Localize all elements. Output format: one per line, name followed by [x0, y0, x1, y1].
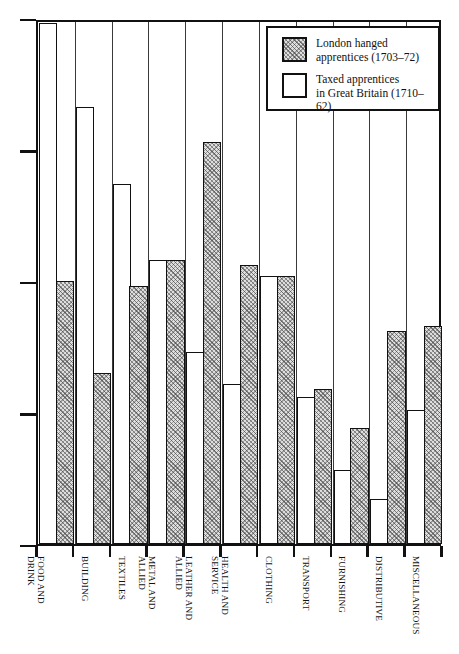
chart-legend: London hanged apprentices (1703–72) Taxe… [266, 26, 440, 111]
x-axis-tick [72, 546, 75, 557]
bar-taxed-10 [407, 410, 425, 544]
bar-hanged-0 [56, 281, 74, 544]
x-axis-label-6: CLOTHING [260, 556, 274, 652]
x-axis-label-3: METAL ANDALLIED [143, 556, 157, 652]
bar-hanged-9 [387, 331, 405, 544]
x-axis-tick [440, 546, 443, 557]
bar-hanged-3 [166, 260, 184, 544]
x-axis-label-5: HEALTH ANDSERVICE [216, 556, 230, 652]
y-axis-tick [20, 150, 36, 153]
x-axis-label-line: TRANSPORT [301, 556, 311, 652]
bar-hanged-1 [93, 373, 111, 544]
x-axis-tick [403, 546, 406, 557]
x-axis-label-9: DISTRIBUTIVE [370, 556, 384, 652]
bar-hanged-4 [203, 142, 221, 544]
bar-taxed-6 [260, 276, 278, 544]
x-axis-label-line: HEALTH AND [220, 556, 230, 652]
x-axis-label-line: DISTRIBUTIVE [374, 556, 384, 652]
legend-swatch-hanged-icon [282, 37, 307, 62]
bar-hanged-10 [424, 326, 442, 544]
y-axis-tick [20, 282, 36, 285]
bar-taxed-1 [76, 107, 94, 544]
bar-taxed-4 [186, 352, 204, 544]
legend-label-hanged-line1: London hanged [316, 37, 388, 49]
x-axis-label-line: CLOTHING [264, 556, 274, 652]
x-axis-label-line: TEXTILES [117, 556, 127, 652]
x-axis-label-0: FOOD ANDDRINK [32, 556, 46, 652]
legend-label-taxed: Taxed apprentices in Great Britain (1710… [316, 73, 438, 114]
x-axis-tick [330, 546, 333, 557]
bar-taxed-9 [370, 499, 388, 544]
x-axis-label-line: METAL AND [147, 556, 157, 652]
bar-taxed-8 [334, 470, 352, 544]
x-axis-tick [366, 546, 369, 557]
y-axis-tick [20, 19, 36, 22]
x-axis-label-line: ALLIED [174, 556, 184, 652]
x-axis-label-8: FURNISHING [333, 556, 347, 652]
legend-swatch-taxed-icon [282, 73, 307, 98]
legend-label-hanged-line2: apprentices (1703–72) [316, 51, 419, 63]
bar-taxed-7 [297, 397, 315, 544]
x-axis-label-7: TRANSPORT [297, 556, 311, 652]
bar-taxed-0 [39, 23, 57, 544]
x-axis-label-line: BUILDING [80, 556, 90, 652]
y-axis-tick [20, 545, 36, 548]
chart-figure: 05101520 London hanged apprentices (1703… [0, 0, 459, 654]
y-axis-tick [20, 413, 36, 416]
legend-item-taxed: Taxed apprentices in Great Britain (1710… [282, 73, 438, 114]
x-axis-label-line: DRINK [26, 556, 36, 652]
x-axis-label-line: FOOD AND [36, 556, 46, 652]
bar-hanged-7 [314, 389, 332, 544]
legend-label-taxed-line2: in Great Britain (1710–62) [316, 87, 424, 113]
x-axis-label-line: LEATHER AND [184, 556, 194, 652]
x-axis-label-4: LEATHER ANDALLIED [180, 556, 194, 652]
x-axis-label-line: SERVICE [210, 556, 220, 652]
bar-hanged-6 [277, 276, 295, 544]
bar-taxed-2 [113, 184, 131, 544]
x-axis-tick [256, 546, 259, 557]
bar-hanged-5 [240, 265, 258, 544]
x-axis-label-line: FURNISHING [337, 556, 347, 652]
bar-hanged-8 [350, 428, 368, 544]
legend-label-taxed-line1: Taxed apprentices [316, 73, 399, 85]
x-axis-tick [293, 546, 296, 557]
legend-item-hanged: London hanged apprentices (1703–72) [282, 37, 438, 64]
x-axis-label-line: MISCELLANEOUS [411, 556, 421, 652]
legend-label-hanged: London hanged apprentices (1703–72) [316, 37, 419, 64]
x-axis-tick [109, 546, 112, 557]
x-axis-label-10: MISCELLANEOUS [407, 556, 421, 652]
bar-taxed-5 [223, 384, 241, 544]
x-axis-label-1: BUILDING [76, 556, 90, 652]
x-axis-label-2: TEXTILES [113, 556, 127, 652]
x-axis-label-line: ALLIED [137, 556, 147, 652]
bar-hanged-2 [129, 286, 147, 544]
bar-taxed-3 [149, 260, 167, 544]
